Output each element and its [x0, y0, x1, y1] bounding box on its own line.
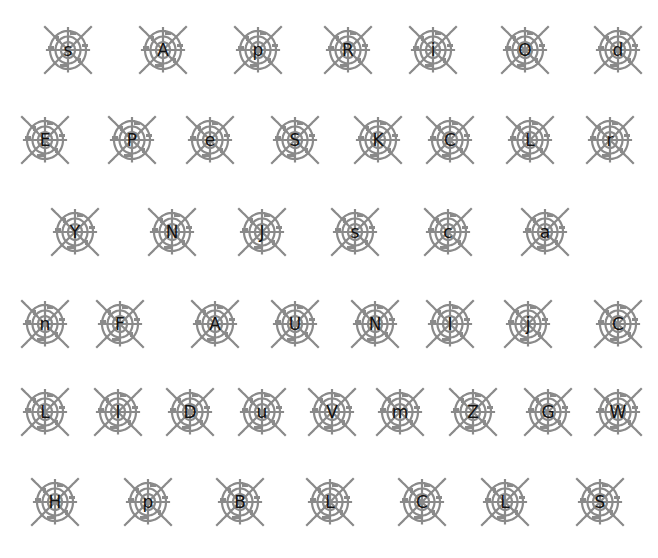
tile-letter: r [584, 114, 636, 166]
letter-tile-r4-c8[interactable]: C [592, 298, 644, 350]
letter-tile-r1-c7[interactable]: d [592, 24, 644, 76]
tile-letter: p [232, 24, 284, 76]
letter-tile-r3-c5[interactable]: c [422, 206, 474, 258]
tile-letter: C [592, 298, 644, 350]
tile-letter: L [19, 386, 71, 438]
letter-tile-r6-c7[interactable]: S [574, 476, 626, 528]
letter-tile-r1-c1[interactable]: s [42, 24, 94, 76]
letter-tile-r6-c4[interactable]: L [304, 476, 356, 528]
letter-tile-r2-c4[interactable]: S [269, 114, 321, 166]
letter-tile-r4-c7[interactable]: j [502, 298, 554, 350]
tile-letter: K [352, 114, 404, 166]
letter-tile-r3-c1[interactable]: Y [49, 206, 101, 258]
letter-tile-r1-c3[interactable]: p [232, 24, 284, 76]
tile-letter: s [329, 206, 381, 258]
tile-letter: P [106, 114, 158, 166]
letter-tile-r3-c6[interactable]: a [519, 206, 571, 258]
letter-tile-r5-c7[interactable]: Z [447, 386, 499, 438]
tile-letter: u [236, 386, 288, 438]
letter-tile-r6-c3[interactable]: B [214, 476, 266, 528]
letter-tile-r2-c2[interactable]: P [106, 114, 158, 166]
letter-tile-r5-c8[interactable]: G [522, 386, 574, 438]
letter-tile-r5-c4[interactable]: u [236, 386, 288, 438]
letter-tile-r1-c5[interactable]: i [407, 24, 459, 76]
letter-tile-r6-c1[interactable]: H [29, 476, 81, 528]
tile-letter: L [504, 114, 556, 166]
tile-letter: O [499, 24, 551, 76]
tile-letter: I [92, 386, 144, 438]
tile-letter: W [592, 386, 644, 438]
tile-letter: B [214, 476, 266, 528]
tile-letter: j [502, 298, 554, 350]
letter-tile-r3-c2[interactable]: N [146, 206, 198, 258]
tile-letter: S [574, 476, 626, 528]
letter-tile-r5-c2[interactable]: I [92, 386, 144, 438]
tile-letter: a [519, 206, 571, 258]
tile-letter: L [479, 476, 531, 528]
letter-tile-r2-c8[interactable]: r [584, 114, 636, 166]
letter-tile-r1-c2[interactable]: A [137, 24, 189, 76]
tile-letter: c [422, 206, 474, 258]
letter-tile-r4-c3[interactable]: A [189, 298, 241, 350]
letter-tile-r5-c3[interactable]: D [164, 386, 216, 438]
tile-letter: d [592, 24, 644, 76]
tile-letter: i [407, 24, 459, 76]
letter-tile-r2-c1[interactable]: E [19, 114, 71, 166]
tile-letter: C [396, 476, 448, 528]
letter-tile-r5-c5[interactable]: V [306, 386, 358, 438]
letter-tile-r4-c4[interactable]: U [269, 298, 321, 350]
letter-tile-r6-c2[interactable]: p [122, 476, 174, 528]
letter-tile-r6-c5[interactable]: C [396, 476, 448, 528]
tile-letter: S [269, 114, 321, 166]
tile-letter: s [42, 24, 94, 76]
tile-letter: m [374, 386, 426, 438]
tile-letter: p [122, 476, 174, 528]
letter-tile-r5-c1[interactable]: L [19, 386, 71, 438]
tile-letter: V [306, 386, 358, 438]
letter-tile-r2-c5[interactable]: K [352, 114, 404, 166]
tile-letter: E [19, 114, 71, 166]
tile-letter: L [304, 476, 356, 528]
tile-letter: A [137, 24, 189, 76]
captcha-letter-grid: s A [0, 0, 658, 558]
letter-tile-r4-c1[interactable]: n [19, 298, 71, 350]
tile-letter: G [522, 386, 574, 438]
tile-letter: H [29, 476, 81, 528]
letter-tile-r3-c3[interactable]: J [236, 206, 288, 258]
letter-tile-r1-c4[interactable]: R [322, 24, 374, 76]
tile-letter: I [424, 298, 476, 350]
tile-letter: J [236, 206, 288, 258]
letter-tile-r4-c6[interactable]: I [424, 298, 476, 350]
tile-letter: A [189, 298, 241, 350]
letter-tile-r3-c4[interactable]: s [329, 206, 381, 258]
letter-tile-r5-c9[interactable]: W [592, 386, 644, 438]
letter-tile-r6-c6[interactable]: L [479, 476, 531, 528]
tile-letter: R [322, 24, 374, 76]
letter-tile-r1-c6[interactable]: O [499, 24, 551, 76]
letter-tile-r2-c3[interactable]: e [184, 114, 236, 166]
tile-letter: Z [447, 386, 499, 438]
tile-letter: e [184, 114, 236, 166]
letter-tile-r4-c2[interactable]: F [94, 298, 146, 350]
tile-letter: N [349, 298, 401, 350]
tile-letter: D [164, 386, 216, 438]
tile-letter: n [19, 298, 71, 350]
tile-letter: U [269, 298, 321, 350]
letter-tile-r2-c7[interactable]: L [504, 114, 556, 166]
tile-letter: Y [49, 206, 101, 258]
letter-tile-r4-c5[interactable]: N [349, 298, 401, 350]
tile-letter: C [424, 114, 476, 166]
letter-tile-r2-c6[interactable]: C [424, 114, 476, 166]
tile-letter: F [94, 298, 146, 350]
tile-letter: N [146, 206, 198, 258]
letter-tile-r5-c6[interactable]: m [374, 386, 426, 438]
